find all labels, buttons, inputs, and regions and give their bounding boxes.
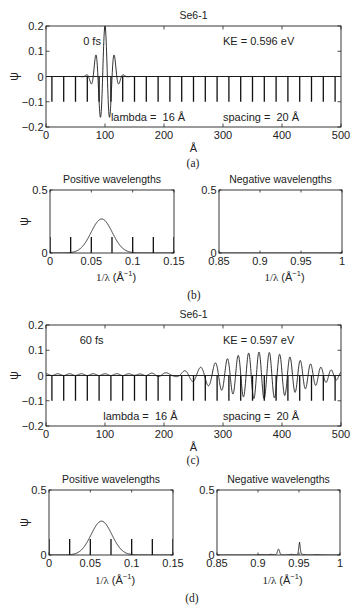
annotation-text: KE = 0.597 eV [223,334,295,346]
x-axis-unit-close: ) [131,574,135,586]
x-tick-label: 200 [155,129,173,141]
x-tick-label: 0 [46,557,52,569]
y-tick-label: 0.5 [32,184,47,196]
y-axis-label: ψ [17,518,31,527]
panel-d-negative-plot: 0.850.90.95100.5Negative wavelengths1/λ … [199,473,343,586]
y-tick-label: 0.5 [199,484,214,496]
caption-a: (a) [187,157,200,170]
x-axis-variable: 1/λ [264,271,279,283]
x-tick-label: 200 [155,428,173,440]
panel-title: Positive wavelengths [62,473,160,485]
spectrum-curve [217,542,340,555]
x-tick-label: 0.95 [290,255,311,267]
axes-frame [219,190,342,253]
panel-b-positive-plot: 00.050.10.1500.5Positive wavelengths1/λ … [17,173,185,283]
panel-title: Negative wavelengths [227,473,330,485]
y-tick-label: −0.2 [22,420,44,432]
annotation-text: lambda = 16 Å [111,111,186,123]
x-axis-label: 1/λ (Å−1) [96,269,136,283]
figure: 0100200300400500−0.2−0.100.10.2Se6-1Åψ0 … [0,0,357,613]
y-tick-label: 0.2 [28,20,43,32]
annotation-text: KE = 0.596 eV [223,35,295,47]
annotation-text: spacing = 20 Å [223,111,300,123]
x-tick-label: 500 [332,428,350,440]
x-axis-label: 1/λ (Å−1) [262,572,302,586]
axis-ticks [217,490,340,555]
x-axis-variable: 1/λ [96,271,111,283]
lattice-peaks-curve [50,237,174,253]
plot-area [46,352,341,401]
x-tick-label: 400 [273,428,291,440]
x-tick-label: 0 [43,428,49,440]
panel-c-plot: 0100200300400500−0.2−0.100.10.2Se6-1Åψ60… [7,308,350,453]
x-axis-variable: 1/λ [95,574,110,586]
panel-title: Se6-1 [179,9,207,21]
x-tick-label: 0.15 [163,255,184,267]
panel-b-negative-plot: 0.850.90.95100.5Negative wavelengths1/λ … [201,173,345,283]
axis-ticks [219,190,342,253]
y-tick-label: 0 [41,247,47,259]
x-axis-unit-close: ) [132,271,136,283]
x-axis-unit-exponent: −1 [292,269,301,278]
x-axis-unit-exponent: −1 [123,572,132,581]
x-tick-label: 0.9 [250,557,265,569]
x-axis-unit: (Å [110,271,125,283]
y-tick-label: 0.1 [28,45,43,57]
x-axis-label: Å [190,441,198,453]
y-tick-label: 0 [40,549,46,561]
panel-a-plot: 0100200300400500−0.2−0.100.10.2Se6-1Åψ0 … [7,9,350,154]
caption-b: (b) [187,289,201,302]
x-axis-unit-close: ) [301,271,305,283]
plot-area [49,521,173,555]
caption-d: (d) [185,592,199,605]
x-tick-label: 0 [43,129,49,141]
y-axis-label: ψ [7,72,21,81]
x-axis-unit-exponent: −1 [124,269,133,278]
x-axis-variable: 1/λ [262,574,277,586]
plot-area [217,542,340,555]
x-axis-unit-exponent: −1 [290,572,299,581]
y-tick-label: 0 [208,549,214,561]
x-axis-label: Å [190,142,198,154]
x-tick-label: 1 [339,255,345,267]
x-tick-label: 300 [214,129,232,141]
axes-frame [217,490,340,555]
y-tick-label: 0.2 [28,319,43,331]
x-tick-label: 0.05 [80,557,101,569]
y-tick-label: 0 [37,71,43,83]
x-tick-label: 0.1 [125,255,140,267]
panel-title: Positive wavelengths [63,173,161,185]
x-tick-label: 1 [337,557,343,569]
panel-title: Se6-1 [179,308,207,320]
annotation-text: 60 fs [80,334,104,346]
caption-c: (c) [187,454,200,467]
x-tick-label: 0.9 [252,255,267,267]
x-tick-label: 0.95 [288,557,309,569]
x-tick-label: 500 [332,129,350,141]
x-tick-label: 400 [273,129,291,141]
x-axis-label: 1/λ (Å−1) [264,269,304,283]
x-axis-label: 1/λ (Å−1) [95,572,135,586]
x-tick-label: 0 [47,255,53,267]
x-tick-label: 0.1 [124,557,139,569]
y-tick-label: 0 [37,370,43,382]
x-tick-label: 100 [96,129,114,141]
potential-wells-curve [52,77,335,102]
x-tick-label: 0.15 [162,557,183,569]
lattice-peaks-curve [49,539,173,555]
annotation-text: spacing = 20 Å [223,410,300,422]
plot-area [50,219,174,253]
y-tick-label: −0.1 [22,395,44,407]
y-tick-label: 0 [210,247,216,259]
panel-d-positive-plot: 00.050.10.1500.5Positive wavelengths1/λ … [17,473,184,586]
x-tick-label: 0.05 [81,255,102,267]
x-axis-unit: (Å [278,271,293,283]
x-axis-unit-close: ) [299,574,303,586]
x-tick-label: 100 [96,428,114,440]
y-tick-label: 0.5 [31,484,46,496]
y-tick-label: 0.1 [28,344,43,356]
y-tick-label: −0.1 [22,96,44,108]
x-axis-unit: (Å [276,574,291,586]
annotation-text: lambda = 16 Å [103,410,178,422]
y-axis-label: ψ [17,217,31,226]
